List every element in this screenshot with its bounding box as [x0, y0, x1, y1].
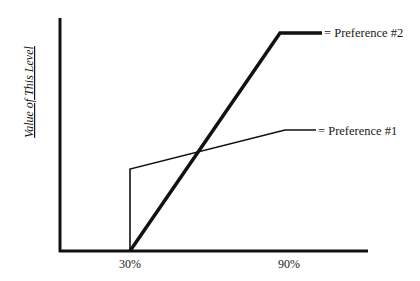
chart-canvas: = Preference #2 = Preference #1 30% 90% …	[0, 0, 420, 281]
legend-preference-1: = Preference #1	[318, 124, 397, 138]
series-preference-2	[130, 33, 322, 251]
x-tick-30: 30%	[119, 257, 141, 271]
series-preference-1	[130, 130, 316, 251]
y-axis-label: Value of This Level	[22, 46, 36, 138]
x-tick-90: 90%	[278, 257, 300, 271]
legend-preference-2: = Preference #2	[324, 26, 403, 40]
